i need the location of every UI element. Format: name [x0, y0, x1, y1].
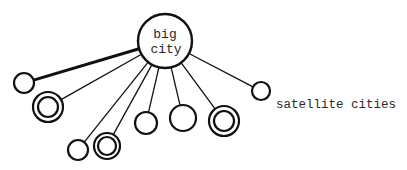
big-city-label-line2: city	[150, 42, 181, 57]
satellite-circles	[14, 73, 270, 160]
link-line-6	[171, 67, 180, 105]
link-line-5	[148, 67, 158, 112]
link-line-7	[181, 63, 215, 109]
satellite-city-circle-8	[252, 82, 270, 100]
satellite-cities-caption: satellite cities	[276, 98, 396, 112]
big-city-label-line1: big	[153, 27, 176, 42]
satellite-city-circle-3	[68, 140, 88, 160]
hub-and-spoke-diagram: big city satellite cities	[0, 0, 407, 170]
satellite-city-circle-6	[170, 105, 196, 131]
link-line-8	[189, 53, 253, 86]
satellite-city-circle-1	[14, 73, 34, 93]
satellite-city-circle-5	[135, 112, 157, 134]
